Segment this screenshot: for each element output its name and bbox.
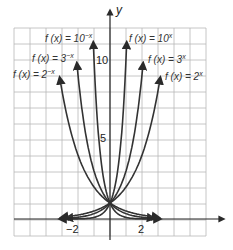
label-3-x: f (x) = 3x bbox=[148, 52, 186, 65]
y-tick-10: 10 bbox=[96, 55, 108, 66]
label-2-x: f (x) = 2x bbox=[165, 69, 203, 82]
label-10-x: f (x) = 10x bbox=[129, 31, 172, 44]
label-10-neg-x: f (x) = 10−x bbox=[45, 31, 92, 44]
y-axis-label: y bbox=[116, 4, 122, 16]
axes bbox=[14, 12, 222, 240]
x-tick-2: 2 bbox=[138, 224, 144, 235]
y-tick-5: 5 bbox=[100, 133, 106, 144]
exponential-functions-chart bbox=[0, 0, 233, 250]
x-tick-neg2: −2 bbox=[66, 224, 79, 235]
label-3-neg-x: f (x) = 3−x bbox=[32, 51, 74, 64]
label-2-neg-x: f (x) = 2−x bbox=[13, 67, 55, 80]
